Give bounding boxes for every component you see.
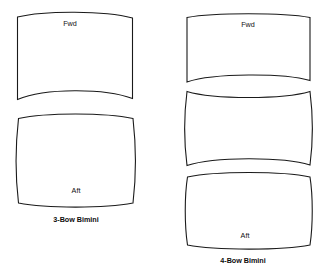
four-bow-panel-1-label: Fwd — [241, 20, 255, 29]
four-bow-group: Fwd Aft 4-Bow Bimini — [185, 14, 313, 265]
three-bow-caption: 3-Bow Bimini — [53, 215, 99, 224]
three-bow-panel-2-label: Aft — [72, 186, 81, 195]
four-bow-panel-3-label: Aft — [241, 231, 250, 240]
four-bow-panel-2-outline — [185, 92, 313, 166]
three-bow-panel-1-label: Fwd — [63, 19, 77, 28]
bimini-panel-diagram: Fwd Aft 3-Bow Bimini Fwd Aft 4-Bow Bimin… — [0, 0, 331, 276]
diagram-canvas: Fwd Aft 3-Bow Bimini Fwd Aft 4-Bow Bimin… — [0, 0, 331, 276]
three-bow-group: Fwd Aft 3-Bow Bimini — [16, 12, 135, 224]
four-bow-caption: 4-Bow Bimini — [220, 256, 266, 265]
